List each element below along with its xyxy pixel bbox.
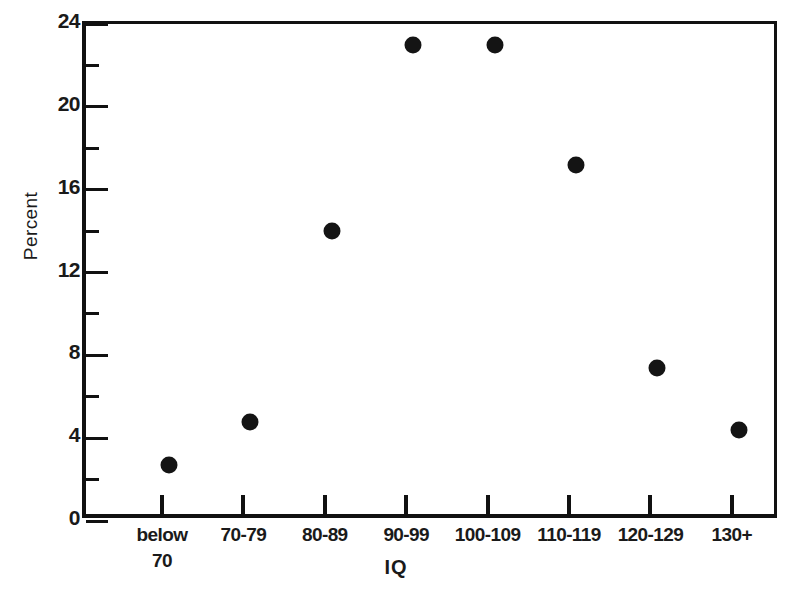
x-axis-tick-label: 70-79 <box>221 525 267 545</box>
x-axis-tick <box>730 495 734 514</box>
x-axis-tick-label-line1: 120-129 <box>618 524 684 545</box>
x-axis-tick-label: 80-89 <box>302 525 348 545</box>
x-axis-tick <box>486 495 490 514</box>
iq-percent-scatter-chart: Percent 04812162024 below7070-7980-8990-… <box>0 0 792 595</box>
y-axis-major-tick <box>86 520 108 523</box>
y-axis-major-tick <box>86 354 108 357</box>
y-axis-major-tick <box>86 437 108 440</box>
y-axis-major-tick <box>86 105 108 108</box>
x-axis-tick <box>160 495 164 514</box>
x-axis-tick <box>241 495 245 514</box>
y-axis-major-tick <box>86 23 108 26</box>
y-axis-tick-label: 12 <box>20 259 80 280</box>
data-point <box>486 36 503 53</box>
y-axis-minor-tick <box>86 230 99 233</box>
x-axis-tick-label-line1: 110-119 <box>537 524 600 545</box>
x-axis-tick-label-line1: 70-79 <box>221 524 267 545</box>
x-axis-tick-label-line1: below <box>137 524 188 545</box>
x-axis-tick <box>323 495 327 514</box>
y-axis-tick-label: 4 <box>20 424 80 445</box>
plot-area <box>82 21 777 518</box>
x-axis-tick-label: 100-109 <box>455 525 521 545</box>
y-axis-tick-label: 16 <box>20 176 80 197</box>
y-axis-minor-tick <box>86 478 99 481</box>
data-point <box>649 359 666 376</box>
data-point <box>161 457 178 474</box>
x-axis-tick-label-line1: 130+ <box>712 524 752 545</box>
x-axis-title: IQ <box>0 556 792 579</box>
data-point <box>323 223 340 240</box>
y-axis-minor-tick <box>86 312 99 315</box>
x-axis-tick-label-line1: 100-109 <box>455 524 521 545</box>
y-axis-tick-label: 24 <box>20 10 80 31</box>
data-point <box>242 413 259 430</box>
x-axis-tick-label: 110-119 <box>537 525 600 545</box>
x-axis-tick-label: 130+ <box>712 525 752 545</box>
x-axis-tick-label: 90-99 <box>383 525 429 545</box>
y-axis-major-tick <box>86 188 108 191</box>
y-axis-tick-label: 8 <box>20 341 80 362</box>
data-point <box>405 36 422 53</box>
y-axis-tick-label: 20 <box>20 93 80 114</box>
y-axis-minor-tick <box>86 147 99 150</box>
y-axis-minor-tick <box>86 64 99 67</box>
data-point <box>730 421 747 438</box>
x-axis-tick-label: 120-129 <box>618 525 684 545</box>
y-axis-tick-label: 0 <box>20 507 80 528</box>
x-axis-tick-label-line1: 80-89 <box>302 524 348 545</box>
data-point <box>568 156 585 173</box>
x-axis-tick-label-line1: 90-99 <box>383 524 429 545</box>
x-axis-tick <box>567 495 571 514</box>
x-axis-tick <box>404 495 408 514</box>
x-axis-tick <box>648 495 652 514</box>
y-axis-minor-tick <box>86 395 99 398</box>
y-axis-major-tick <box>86 271 108 274</box>
